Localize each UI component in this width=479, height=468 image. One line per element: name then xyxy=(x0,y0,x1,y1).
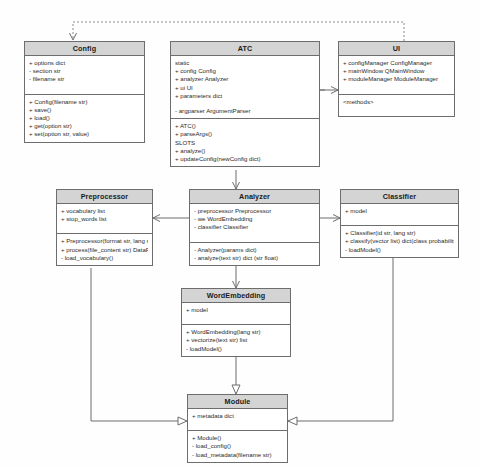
class-methods-wordembedding: + WordEmbedding(lang str) + vectorize(te… xyxy=(182,324,290,356)
class-name-analyzer: Analyzer xyxy=(190,190,319,204)
class-methods-atc: + ATC() + parseArgs() SLOTS + analyze() … xyxy=(171,118,319,166)
class-box-classifier[interactable]: Classifier + model + Classifier(id str, … xyxy=(340,189,459,258)
attribute: + moduleManager ModuleManager xyxy=(343,75,450,83)
method: - load_vocabulary() xyxy=(61,254,148,262)
attribute: + config Config xyxy=(175,67,315,75)
method: + Preprocessor(format str, lang str) xyxy=(61,237,148,245)
class-name-wordembedding: WordEmbedding xyxy=(182,289,290,303)
class-attributes-ui: + configManager ConfigManager + mainWind… xyxy=(339,56,454,94)
class-methods-analyzer: - Analyzer(params dict) - analyze(text s… xyxy=(190,242,319,265)
attribute: + ui UI xyxy=(175,84,315,92)
class-methods-classifier: + Classifier(id str, lang str) + classif… xyxy=(341,225,458,257)
method: + updateConfig(newConfig dict) xyxy=(175,155,315,163)
spacer xyxy=(61,223,148,230)
method: + get(option str) xyxy=(29,122,140,130)
method: + vectorize(text str) list xyxy=(186,336,286,344)
spacer xyxy=(343,84,450,91)
method: - loadModel() xyxy=(186,345,286,353)
method: + WordEmbedding(lang str) xyxy=(186,328,286,336)
spacer xyxy=(29,84,140,91)
class-attributes-analyzer: - preprocessor Preprocessor - we WordEmb… xyxy=(190,204,319,242)
attribute: + model xyxy=(345,207,454,215)
method: - load_metadata(filename str) xyxy=(192,451,283,459)
method: + set(option str, value) xyxy=(29,130,140,138)
class-methods-config: + Config(filename str) + save() + load()… xyxy=(25,94,144,142)
class-name-preprocessor: Preprocessor xyxy=(57,190,152,204)
class-name-module: Module xyxy=(188,395,287,409)
class-attributes-wordembedding: + model xyxy=(182,303,290,324)
method: + classify(vector list) dict(class proba… xyxy=(345,237,454,245)
method: - Analyzer(params dict) xyxy=(194,246,315,254)
attribute: + metadata dict xyxy=(192,412,283,420)
attribute-stereotype: static xyxy=(175,59,315,67)
class-methods-preprocessor: + Preprocessor(format str, lang str) + p… xyxy=(57,233,152,265)
class-box-wordembedding[interactable]: WordEmbedding + model + WordEmbedding(la… xyxy=(181,288,291,357)
attribute: + analyzer Analyzer xyxy=(175,75,315,83)
attribute: - we WordEmbedding xyxy=(194,215,315,223)
attribute: + parameters dict xyxy=(175,92,315,100)
method: + process(file_content str) DataFrame xyxy=(61,246,148,254)
method: - load_config() xyxy=(192,442,283,450)
spacer xyxy=(186,314,286,321)
attribute: - argparser ArgumentParser xyxy=(175,107,315,115)
class-box-ui[interactable]: UI + configManager ConfigManager + mainW… xyxy=(338,41,455,117)
class-name-atc: ATC xyxy=(171,42,319,56)
edge-ui-config-dependency xyxy=(73,22,404,41)
spacer xyxy=(192,420,283,427)
attribute: - filename str xyxy=(29,75,140,83)
method: + Module() xyxy=(192,434,283,442)
class-attributes-atc: static + config Config + analyzer Analyz… xyxy=(171,56,319,118)
method: + ATC() xyxy=(175,122,315,130)
attribute: - section str xyxy=(29,67,140,75)
class-box-analyzer[interactable]: Analyzer - preprocessor Preprocessor - w… xyxy=(189,189,320,266)
method: + parseArgs() xyxy=(175,130,315,138)
edge-preprocessor-module-inheritance xyxy=(91,268,187,421)
attribute: - preprocessor Preprocessor xyxy=(194,207,315,215)
attribute: + options dict xyxy=(29,59,140,67)
method-stereotype: SLOTS xyxy=(175,139,315,147)
class-attributes-preprocessor: + vocabulary list + stop_words list xyxy=(57,204,152,233)
attribute: + stop_words list xyxy=(61,215,148,223)
method: + Classifier(id str, lang str) xyxy=(345,229,454,237)
spacer xyxy=(175,100,315,107)
class-methods-ui: <methods> xyxy=(339,94,454,116)
attribute: + vocabulary list xyxy=(61,207,148,215)
method: + Config(filename str) xyxy=(29,98,140,106)
class-box-preprocessor[interactable]: Preprocessor + vocabulary list + stop_wo… xyxy=(56,189,153,266)
method: - loadModel() xyxy=(345,246,454,254)
class-methods-module: + Module() - load_config() - load_metada… xyxy=(188,430,287,462)
class-name-config: Config xyxy=(25,42,144,56)
attribute: - classifier Classifier xyxy=(194,223,315,231)
method: + save() xyxy=(29,106,140,114)
uml-diagram-canvas: Config + options dict - section str - fi… xyxy=(0,0,479,468)
class-box-config[interactable]: Config + options dict - section str - fi… xyxy=(24,41,145,143)
attribute: + mainWindow QMainWindow xyxy=(343,67,450,75)
method: + load() xyxy=(29,114,140,122)
class-box-atc[interactable]: ATC static + config Config + analyzer An… xyxy=(170,41,320,167)
class-attributes-classifier: + model xyxy=(341,204,458,225)
attribute: + model xyxy=(186,306,286,314)
edge-classifier-module-inheritance xyxy=(288,253,393,421)
class-name-ui: UI xyxy=(339,42,454,56)
class-box-module[interactable]: Module + metadata dict + Module() - load… xyxy=(187,394,288,463)
method: - analyze(text str) dict (str float) xyxy=(194,254,315,262)
class-attributes-module: + metadata dict xyxy=(188,409,287,430)
method: + analyze() xyxy=(175,147,315,155)
method-placeholder: <methods> xyxy=(343,98,450,106)
spacer xyxy=(194,232,315,239)
class-name-classifier: Classifier xyxy=(341,190,458,204)
class-attributes-config: + options dict - section str - filename … xyxy=(25,56,144,94)
attribute: + configManager ConfigManager xyxy=(343,59,450,67)
spacer xyxy=(345,215,454,222)
